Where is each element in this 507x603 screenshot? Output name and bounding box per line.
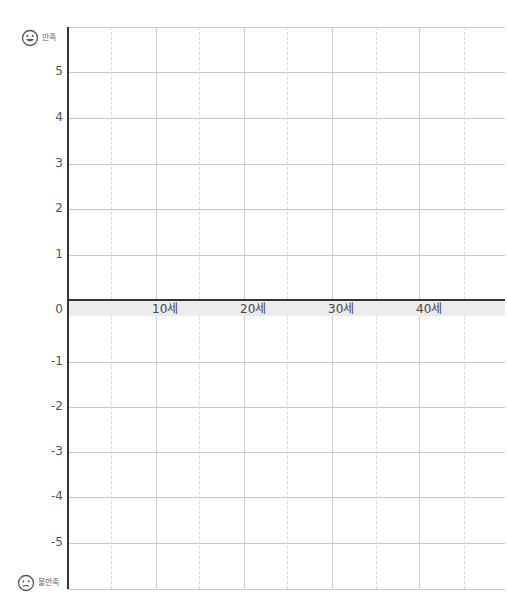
y-tick-label: 0 [33,302,63,316]
y-tick-label: -1 [33,354,63,368]
y-tick-label: 4 [33,110,63,124]
x-tick-label: 10세 [152,302,178,316]
x-tick-label: 40세 [416,302,442,316]
y-axis-line [67,27,69,589]
satisfied-label: 만족 [42,33,56,43]
y-tick-label: -4 [33,489,63,503]
x-axis-zero-line [69,299,505,301]
y-tick-label: -3 [33,444,63,458]
y-tick-label: 5 [33,64,63,78]
happy-face-icon [21,29,39,47]
sad-face-icon [17,574,35,592]
y-tick-label: 3 [33,156,63,170]
grid-bottom-border [68,589,505,590]
dissatisfied-label: 불만족 [38,578,59,588]
x-tick-label: 20세 [240,302,266,316]
x-tick-label: 30세 [328,302,354,316]
y-tick-label: -5 [33,535,63,549]
y-tick-label: -2 [33,399,63,413]
y-tick-label: 1 [33,247,63,261]
y-tick-label: 2 [33,201,63,215]
life-satisfaction-chart: 5 4 3 2 1 0 -1 -2 -3 -4 -5 10세 20세 30세 4… [0,0,507,603]
